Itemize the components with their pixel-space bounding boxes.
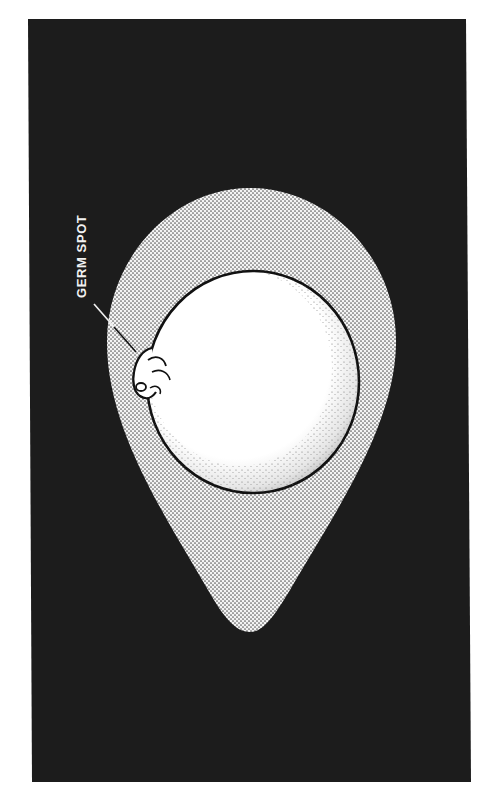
egg-diagram: GERM SPOT	[0, 0, 491, 807]
egg-diagram-svg: GERM SPOT	[0, 0, 491, 807]
germ-spot-label: GERM SPOT	[74, 215, 89, 298]
yolk-stipple-shading	[147, 271, 359, 493]
